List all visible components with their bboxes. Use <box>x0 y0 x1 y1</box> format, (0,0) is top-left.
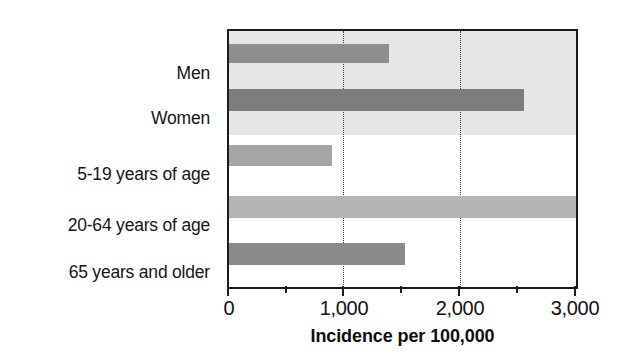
category-label-65-and-older: 65 years and older <box>69 263 210 281</box>
category-axis-labels: Men Women 5-19 years of age 20-64 years … <box>0 28 220 292</box>
bar-women <box>229 89 524 111</box>
xtick-label-2000: 2,000 <box>436 296 485 320</box>
plot-area <box>227 29 578 289</box>
xtick-2000 <box>458 286 460 296</box>
xtick-0 <box>227 286 229 296</box>
xtick-label-1000: 1,000 <box>320 296 369 320</box>
category-label-men: Men <box>177 64 210 82</box>
bar-5-19-years <box>229 145 332 166</box>
x-axis-ticks <box>227 286 578 296</box>
category-label-women: Women <box>151 109 210 127</box>
xtick-label-3000: 3,000 <box>551 296 600 320</box>
xtick-3000 <box>574 286 576 296</box>
xtick-label-0: 0 <box>224 296 235 320</box>
bar-men <box>229 44 389 63</box>
bar-20-64-years <box>229 196 576 218</box>
category-label-20-64-years: 20-64 years of age <box>68 216 210 234</box>
xtick-2500 <box>516 286 518 293</box>
x-axis-tick-labels: 0 1,000 2,000 3,000 <box>0 296 625 324</box>
category-label-5-19-years: 5-19 years of age <box>77 165 210 183</box>
xtick-1000 <box>342 286 344 296</box>
bar-65-and-older <box>229 243 405 265</box>
x-axis-title: Incidence per 100,000 <box>227 326 578 347</box>
incidence-bar-chart: Men Women 5-19 years of age 20-64 years … <box>0 0 625 358</box>
xtick-1500 <box>400 286 402 293</box>
xtick-500 <box>285 286 287 293</box>
gridline-2000 <box>460 31 461 287</box>
